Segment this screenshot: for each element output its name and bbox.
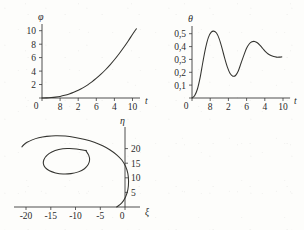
phi-xtick-2: 2 bbox=[76, 102, 81, 112]
phi-ytick-3: 6 bbox=[31, 53, 36, 63]
phi-ytick-2: 4 bbox=[31, 67, 36, 77]
theta-ytick-2: 0,2 bbox=[174, 68, 186, 78]
spiral-ytick-0: 5 bbox=[131, 188, 136, 198]
phi-xtick-4: 4 bbox=[112, 102, 117, 112]
chart-phi-vs-t: 0 8 2 6 4 10 2 4 6 8 10 t φ bbox=[0, 0, 152, 115]
spiral-ytick-1: 10 bbox=[131, 173, 141, 183]
phi-y-axis-label: φ bbox=[38, 11, 44, 22]
spiral-xtick-4: 0 bbox=[120, 211, 125, 221]
theta-xtick-3: 6 bbox=[244, 102, 249, 112]
spiral-axes bbox=[14, 127, 140, 207]
theta-data-curve bbox=[192, 31, 282, 98]
spiral-y-axis-label: η bbox=[120, 115, 125, 126]
chart-theta-svg: 0 8 2 6 4 10 0,1 0,2 0,3 0,4 0,5 t θ bbox=[152, 0, 304, 115]
phi-ytick-4: 8 bbox=[31, 40, 36, 50]
spiral-ytick-3: 20 bbox=[131, 144, 141, 154]
chart-eta-vs-xi: -20 -15 -10 -5 0 5 10 15 20 ξ η bbox=[0, 115, 250, 230]
spiral-trajectory-curve bbox=[22, 136, 129, 207]
theta-y-axis-label: θ bbox=[188, 13, 193, 24]
theta-xtick-2: 2 bbox=[226, 102, 231, 112]
chart-phi-svg: 0 8 2 6 4 10 2 4 6 8 10 t φ bbox=[0, 0, 152, 115]
spiral-xtick-3: -5 bbox=[96, 211, 104, 221]
spiral-x-axis-label: ξ bbox=[145, 207, 150, 218]
theta-ytick-5: 0,5 bbox=[174, 29, 186, 39]
spiral-ytick-2: 15 bbox=[131, 159, 141, 169]
phi-ytick-5: 10 bbox=[27, 26, 37, 36]
spiral-xtick-0: -20 bbox=[20, 211, 33, 221]
phi-data-curve bbox=[42, 29, 136, 98]
theta-x-axis-label: t bbox=[294, 96, 297, 106]
phi-x-axis-label: t bbox=[145, 96, 148, 106]
theta-xtick-0: 0 bbox=[184, 101, 189, 111]
spiral-svg: -20 -15 -10 -5 0 5 10 15 20 ξ η bbox=[0, 115, 250, 230]
spiral-xtick-2: -10 bbox=[69, 211, 82, 221]
theta-ytick-4: 0,4 bbox=[174, 42, 186, 52]
phi-ytick-1: 2 bbox=[31, 80, 36, 90]
spiral-xtick-1: -15 bbox=[44, 211, 57, 221]
spiral-inner-loop-curve bbox=[43, 149, 89, 174]
phi-axes bbox=[42, 24, 140, 98]
theta-ytick-1: 0,1 bbox=[174, 81, 186, 91]
phi-xtick-5: 10 bbox=[128, 102, 138, 112]
theta-xtick-4: 4 bbox=[262, 102, 267, 112]
phi-xtick-3: 6 bbox=[94, 102, 99, 112]
chart-theta-vs-t: 0 8 2 6 4 10 0,1 0,2 0,3 0,4 0,5 t θ bbox=[152, 0, 304, 115]
theta-xtick-5: 10 bbox=[278, 102, 288, 112]
phi-xtick-1: 8 bbox=[58, 102, 63, 112]
theta-xtick-1: 8 bbox=[208, 102, 213, 112]
phi-xtick-0: 0 bbox=[34, 101, 39, 111]
theta-ytick-3: 0,3 bbox=[174, 55, 186, 65]
